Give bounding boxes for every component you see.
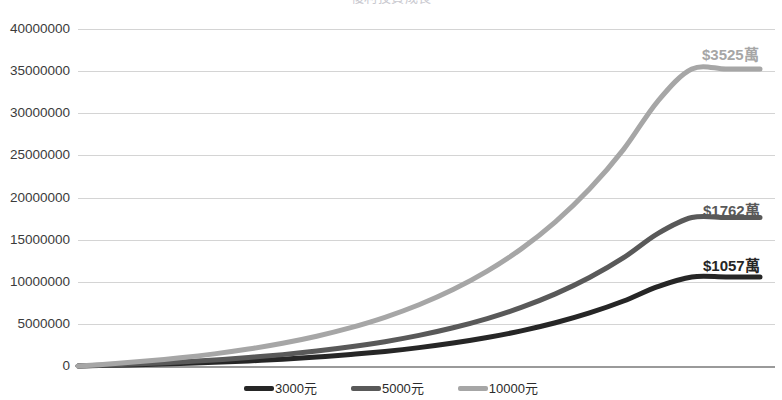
y-axis-tick-label: 20000000 (0, 191, 70, 205)
series-curves (78, 0, 775, 400)
series-value-label: $3525萬 (702, 47, 759, 62)
series-value-label: $1057萬 (703, 258, 760, 273)
series-line-3000元 (78, 276, 760, 366)
y-axis-tick-label: 0 (0, 359, 70, 373)
legend-item[interactable]: 3000元 (244, 382, 317, 395)
y-axis-tick-label: 30000000 (0, 107, 70, 121)
y-axis-tick-label: 40000000 (0, 22, 70, 36)
chart-legend: 3000元5000元10000元 (0, 382, 782, 395)
plot-area: $1057萬$1762萬$3525萬 (78, 0, 775, 400)
legend-swatch-icon (244, 386, 274, 391)
chart-container: 複利投資成長 400000003500000030000000250000002… (0, 0, 782, 400)
legend-label: 5000元 (382, 382, 424, 395)
series-line-10000元 (78, 67, 760, 366)
y-axis-tick-label: 15000000 (0, 233, 70, 247)
y-axis-tick-label: 5000000 (0, 317, 70, 331)
series-value-label: $1762萬 (703, 203, 760, 218)
legend-item[interactable]: 5000元 (351, 382, 424, 395)
series-line-5000元 (78, 216, 760, 366)
y-axis-tick-label: 35000000 (0, 64, 70, 78)
legend-label: 10000元 (489, 382, 538, 395)
y-axis-tick-label: 10000000 (0, 275, 70, 289)
y-axis-tick-label: 25000000 (0, 149, 70, 163)
legend-swatch-icon (458, 386, 488, 391)
legend-item[interactable]: 10000元 (458, 382, 538, 395)
y-axis: 4000000035000000300000002500000020000000… (0, 0, 70, 400)
legend-label: 3000元 (275, 382, 317, 395)
legend-swatch-icon (351, 386, 381, 391)
